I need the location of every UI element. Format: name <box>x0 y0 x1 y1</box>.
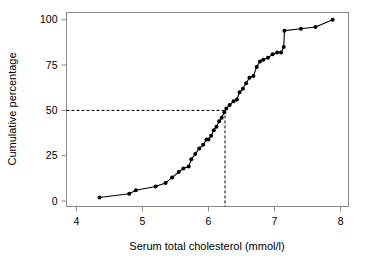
data-point <box>214 125 218 129</box>
chart-canvas: 0255075100 45678 Serum total cholesterol… <box>0 0 372 259</box>
chart-background <box>0 0 372 259</box>
data-point <box>154 185 158 189</box>
y-tick-label: 100 <box>40 13 58 25</box>
data-point <box>177 170 181 174</box>
data-point <box>197 146 201 150</box>
x-tick-label: 6 <box>206 215 212 227</box>
data-point <box>251 74 255 78</box>
data-point <box>164 181 168 185</box>
y-tick-label: 25 <box>46 149 58 161</box>
data-point <box>247 76 251 80</box>
data-point <box>331 18 335 22</box>
y-tick-label: 50 <box>46 104 58 116</box>
data-point <box>209 134 213 138</box>
data-point <box>241 87 245 91</box>
data-point <box>235 98 239 102</box>
data-point <box>212 128 216 132</box>
cumulative-percentage-chart: 0255075100 45678 Serum total cholesterol… <box>0 0 372 259</box>
data-point <box>220 116 224 120</box>
data-point <box>299 27 303 31</box>
y-tick-label: 0 <box>52 195 58 207</box>
data-point <box>261 58 265 62</box>
data-point <box>271 52 275 56</box>
data-point <box>238 90 242 94</box>
data-point <box>134 188 138 192</box>
x-tick-label: 7 <box>272 215 278 227</box>
data-point <box>170 175 174 179</box>
data-point <box>255 65 259 69</box>
data-point <box>244 81 248 85</box>
data-point <box>266 56 270 60</box>
data-point <box>275 50 279 54</box>
data-point <box>193 152 197 156</box>
data-point <box>206 137 210 141</box>
x-axis-title: Serum total cholesterol (mmol/l) <box>129 240 284 252</box>
x-tick-label: 4 <box>73 215 79 227</box>
data-point <box>222 110 226 114</box>
data-point <box>98 195 102 199</box>
data-point <box>189 157 193 161</box>
data-point <box>228 103 232 107</box>
x-tick-label: 8 <box>338 215 344 227</box>
data-point <box>282 29 286 33</box>
y-axis-title: Cumulative percentage <box>6 52 18 165</box>
data-point <box>187 165 191 169</box>
data-point <box>279 50 283 54</box>
data-point <box>181 166 185 170</box>
data-point <box>201 143 205 147</box>
data-point <box>127 192 131 196</box>
x-tick-label: 5 <box>140 215 146 227</box>
data-point <box>217 119 221 123</box>
data-point <box>282 45 286 49</box>
data-point <box>224 107 228 111</box>
y-tick-label: 75 <box>46 59 58 71</box>
data-point <box>313 25 317 29</box>
